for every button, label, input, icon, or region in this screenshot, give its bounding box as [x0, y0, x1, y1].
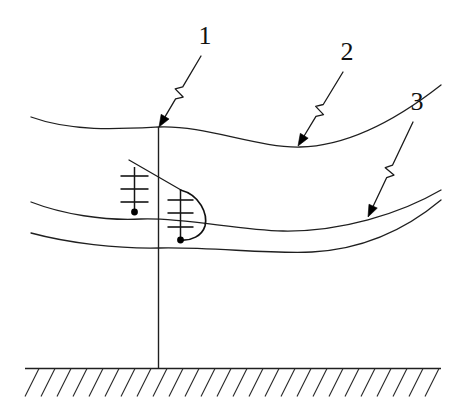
ground-hatch-line: [313, 369, 327, 397]
conductor-middle: [31, 190, 441, 231]
leader-line: [165, 56, 201, 117]
ground-hatch-line: [361, 369, 375, 397]
callout-leader-3: [368, 122, 413, 217]
ground-hatch-line: [377, 369, 391, 397]
ground-hatch-line: [137, 369, 151, 397]
ground-hatch-line: [329, 369, 343, 397]
leader-arrowhead: [368, 204, 377, 217]
ground-hatch-line: [281, 369, 295, 397]
leader-arrowhead: [159, 114, 169, 127]
ground-hatching: [25, 369, 439, 397]
ground-hatch-line: [425, 369, 439, 397]
insulator-string-group: [121, 167, 194, 243]
ground-hatch-line: [249, 369, 263, 397]
ground-hatch-line: [89, 369, 103, 397]
ground-hatch-line: [169, 369, 183, 397]
ground-hatch-line: [41, 369, 55, 397]
callout-label-1: 1: [199, 21, 212, 50]
callout-label-2: 2: [341, 37, 354, 66]
ground-hatch-line: [105, 369, 119, 397]
callout-leader-2: [298, 72, 343, 146]
conductor-group: [31, 85, 441, 252]
diagonal-brace: [129, 160, 181, 190]
callout-leader-group: [159, 56, 413, 217]
ground-hatch-line: [73, 369, 87, 397]
insulator-string-right: [168, 190, 194, 243]
figure-canvas: 1 2 3: [0, 0, 451, 409]
ground-hatch-line: [393, 369, 407, 397]
ground-hatch-line: [57, 369, 71, 397]
callout-leader-1: [159, 56, 201, 127]
ground-hatch-line: [345, 369, 359, 397]
ground-hatch-line: [233, 369, 247, 397]
attachment-node-dot: [131, 209, 138, 216]
leader-arrowhead: [298, 133, 308, 146]
ground-group: [25, 369, 441, 397]
leader-line: [304, 72, 343, 136]
ground-hatch-line: [25, 369, 39, 397]
ground-hatch-line: [201, 369, 215, 397]
ground-hatch-line: [297, 369, 311, 397]
callout-label-3: 3: [411, 87, 424, 116]
ground-hatch-line: [121, 369, 135, 397]
conductor-upper: [31, 85, 441, 147]
conductor-lower: [31, 200, 441, 252]
attachment-node-dot: [177, 237, 184, 244]
leader-line: [373, 122, 413, 206]
insulator-string-left: [121, 167, 149, 215]
ground-hatch-line: [153, 369, 167, 397]
ground-hatch-line: [265, 369, 279, 397]
jumper-loop-arc: [181, 190, 206, 240]
ground-hatch-line: [217, 369, 231, 397]
ground-hatch-line: [185, 369, 199, 397]
ground-hatch-line: [409, 369, 423, 397]
schematic-diagram: 1 2 3: [0, 0, 451, 409]
